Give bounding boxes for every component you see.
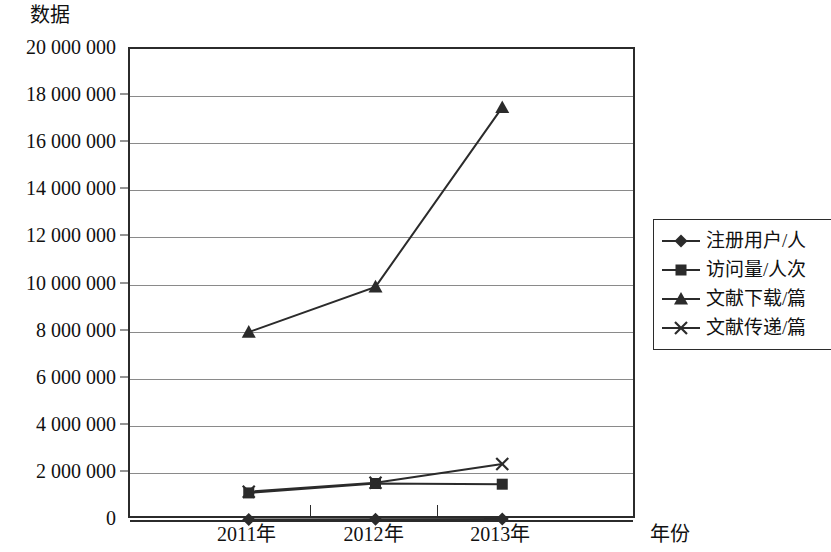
x-axis-tick-marks bbox=[128, 505, 635, 518]
x-tick-label: 2012年 bbox=[344, 522, 404, 546]
y-tick-label: 20 000 000 bbox=[26, 37, 122, 57]
line-chart-figure: 数据 20 000 00018 000 00016 000 00014 000 … bbox=[0, 0, 831, 552]
legend-item[interactable]: 文献下载/篇 bbox=[654, 284, 831, 313]
series-overlay bbox=[130, 49, 637, 520]
legend-label: 文献下载/篇 bbox=[706, 288, 806, 310]
legend-item[interactable]: 文献传递/篇 bbox=[654, 313, 831, 342]
legend-marker-square-icon bbox=[661, 261, 701, 279]
x-axis-title: 年份 bbox=[650, 522, 690, 546]
data-point-diamond bbox=[675, 234, 688, 247]
legend-label: 访问量/人次 bbox=[706, 259, 806, 281]
series-2 bbox=[242, 100, 510, 337]
series-1 bbox=[243, 478, 508, 498]
y-tick-label: 18 000 000 bbox=[26, 84, 122, 104]
legend-marker-diamond-icon bbox=[661, 232, 701, 250]
data-point-square bbox=[676, 264, 687, 275]
legend-marker-x-icon bbox=[661, 319, 701, 337]
x-tick-mark bbox=[437, 505, 438, 516]
x-tick-label: 2013年 bbox=[470, 522, 530, 546]
legend-marker-triangle-icon bbox=[661, 290, 701, 308]
data-point-triangle bbox=[369, 280, 383, 293]
y-axis-tick-labels: 20 000 00018 000 00016 000 00014 000 000… bbox=[0, 47, 122, 518]
legend-item[interactable]: 访问量/人次 bbox=[654, 255, 831, 284]
y-tick-label: 4 000 000 bbox=[36, 414, 122, 434]
y-axis-title: 数据 bbox=[30, 2, 70, 28]
x-tick-mark bbox=[310, 505, 311, 516]
x-axis-tick-labels: 2011年2012年2013年 bbox=[128, 522, 635, 552]
y-tick-label: 12 000 000 bbox=[26, 225, 122, 245]
data-point-triangle bbox=[495, 100, 509, 113]
legend-item[interactable]: 注册用户/人 bbox=[654, 226, 831, 255]
y-tick-label: 2 000 000 bbox=[36, 461, 122, 481]
y-tick-label: 0 bbox=[106, 508, 122, 528]
legend-label: 文献传递/篇 bbox=[706, 317, 806, 339]
y-tick-label: 6 000 000 bbox=[36, 367, 122, 387]
data-point-square bbox=[497, 479, 508, 490]
legend: 注册用户/人访问量/人次文献下载/篇文献传递/篇 bbox=[653, 219, 831, 350]
series-3 bbox=[243, 458, 509, 498]
y-tick-label: 16 000 000 bbox=[26, 131, 122, 151]
plot-area bbox=[128, 47, 635, 518]
x-tick-label: 2011年 bbox=[217, 522, 276, 546]
y-tick-label: 10 000 000 bbox=[26, 273, 122, 293]
y-tick-label: 8 000 000 bbox=[36, 320, 122, 340]
y-tick-label: 14 000 000 bbox=[26, 178, 122, 198]
legend-label: 注册用户/人 bbox=[706, 230, 806, 252]
